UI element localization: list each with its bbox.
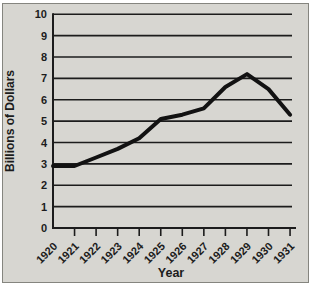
data-line	[53, 74, 290, 166]
axes	[52, 13, 296, 236]
x-tick-label: 1930	[249, 240, 275, 266]
x-tick-label: 1920	[34, 240, 60, 266]
line-chart: 012345678910 192019211922192319241925192…	[0, 0, 317, 293]
y-tick-label: 9	[41, 30, 47, 42]
y-tick-label: 6	[41, 94, 47, 106]
x-tick-label: 1923	[98, 240, 124, 266]
y-axis-tick-labels: 012345678910	[35, 8, 48, 234]
y-tick-label: 0	[41, 222, 47, 234]
y-tick-label: 4	[41, 137, 48, 149]
x-tick-label: 1924	[120, 239, 146, 265]
y-tick-label: 10	[35, 8, 47, 20]
y-tick-label: 1	[41, 201, 47, 213]
y-tick-label: 3	[41, 158, 47, 170]
y-tick-label: 5	[41, 115, 47, 127]
x-tick-label: 1921	[55, 240, 81, 266]
x-tick-label: 1927	[184, 240, 210, 266]
y-tick-label: 2	[41, 179, 47, 191]
x-tick-label: 1929	[228, 240, 254, 266]
x-tick-label: 1928	[206, 240, 232, 266]
y-axis-title: Billions of Dollars	[3, 70, 17, 172]
x-tick-label: 1926	[163, 240, 189, 266]
y-tick-label: 8	[41, 51, 47, 63]
x-tick-label: 1931	[271, 240, 297, 266]
x-tick-label: 1925	[141, 240, 167, 266]
x-axis-title: Year	[158, 266, 185, 280]
x-axis-tick-labels: 1920192119221923192419251926192719281929…	[34, 239, 297, 265]
gridlines	[53, 14, 292, 206]
y-tick-label: 7	[41, 72, 47, 84]
x-tick-label: 1922	[77, 240, 103, 266]
